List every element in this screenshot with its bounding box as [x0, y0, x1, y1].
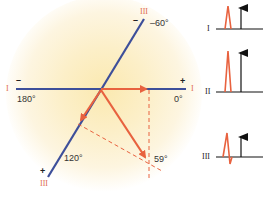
ecg-panel-I	[216, 6, 263, 29]
ecg-panel-III	[216, 133, 263, 164]
lead-III-negative-sign: –	[133, 16, 138, 25]
angle-59-label: 59°	[154, 155, 168, 164]
ecg-panel-II-label: II	[205, 88, 210, 96]
angle-120-label: 120°	[64, 154, 83, 163]
lead-III-positive-sign: +	[40, 167, 45, 176]
angle-minus60-label: –60°	[150, 19, 169, 28]
ecg-panel-III-label: III	[202, 153, 210, 161]
vector-mean-axis	[101, 90, 145, 157]
lead-I-negative-sign: –	[16, 76, 21, 85]
ecg-panel-II	[216, 51, 263, 92]
lead-I-positive-sign: +	[180, 77, 185, 86]
ecg-panel-I-label: I	[207, 25, 210, 33]
angle-0-label: 0°	[174, 95, 183, 104]
lead-I-left-label: I	[6, 85, 9, 93]
hexaxial-diagram: I I – + 180° 0° III – –60° 120° + III 59…	[0, 0, 265, 201]
lead-III-bottom-label: III	[40, 180, 48, 188]
lead-III-top-label: III	[140, 8, 148, 16]
lead-I-right-label: I	[191, 85, 194, 93]
angle-180-label: 180°	[17, 95, 36, 104]
vector-lead-III-projection	[81, 90, 101, 120]
